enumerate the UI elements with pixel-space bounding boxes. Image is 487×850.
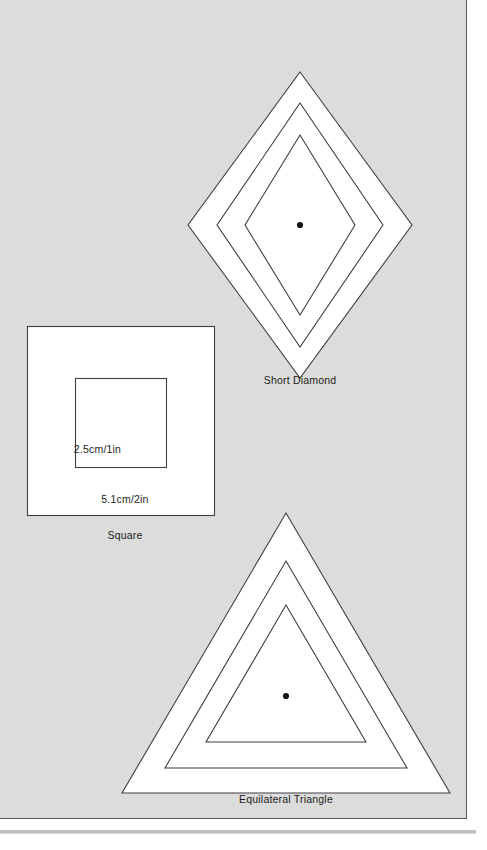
page-border-right: [466, 0, 467, 819]
square-outer-dimension-label: 5.1cm/2in: [20, 493, 230, 505]
page-footer-area: [0, 819, 487, 850]
square-outline-outer: [28, 327, 215, 516]
triangle-center-dot: [283, 693, 289, 699]
page-canvas: Short Diamond 2.5cm/1in 5.1cm/2in Square…: [0, 0, 487, 850]
triangle-outline-1: [122, 513, 450, 793]
page-margin-right: [467, 0, 487, 819]
square-inner-dimension-label: 2.5cm/1in: [20, 443, 175, 455]
equilateral-triangle-drawing: [115, 506, 457, 800]
caption-equilateral-triangle: Equilateral Triangle: [176, 793, 396, 805]
diamond-center-dot: [297, 222, 303, 228]
figure-equilateral-triangle: [115, 506, 457, 800]
footer-divider-rule-secondary: [0, 833, 476, 834]
caption-short-diamond: Short Diamond: [220, 374, 380, 386]
